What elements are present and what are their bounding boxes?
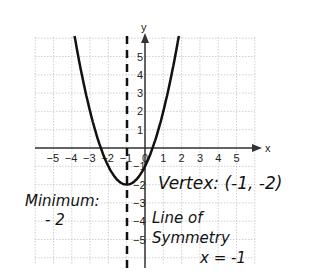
y-axis-label: y	[141, 21, 147, 33]
y-axis-arrow-icon	[141, 33, 149, 43]
minimum-value: - 2	[45, 211, 65, 229]
parabola-graph: x y −5−4−3−2−1012345 54321−1−2−3−4−5 Ver…	[0, 0, 315, 279]
svg-text:−3: −3	[133, 197, 146, 209]
symmetry-title2: Symmetry	[152, 229, 231, 247]
svg-text:5: 5	[234, 152, 240, 164]
svg-text:1: 1	[160, 152, 166, 164]
svg-text:1: 1	[137, 124, 143, 136]
svg-text:−5: −5	[133, 234, 146, 246]
vertex-annotation: Vertex: (-1, -2)	[158, 173, 282, 193]
svg-text:3: 3	[137, 87, 143, 99]
minimum-title: Minimum:	[25, 192, 100, 210]
symmetry-title: Line of	[152, 209, 205, 227]
svg-text:2: 2	[137, 105, 143, 117]
svg-text:4: 4	[137, 69, 143, 81]
svg-text:4: 4	[215, 152, 221, 164]
svg-text:−3: −3	[83, 152, 96, 164]
svg-text:−5: −5	[47, 152, 60, 164]
svg-text:3: 3	[197, 152, 203, 164]
svg-text:−4: −4	[65, 152, 78, 164]
x-axis-arrow-icon	[252, 144, 262, 152]
x-axis-label: x	[265, 142, 271, 154]
svg-text:2: 2	[179, 152, 185, 164]
symmetry-equation: x = -1	[199, 249, 246, 267]
svg-text:5: 5	[137, 51, 143, 63]
svg-text:−4: −4	[133, 215, 146, 227]
